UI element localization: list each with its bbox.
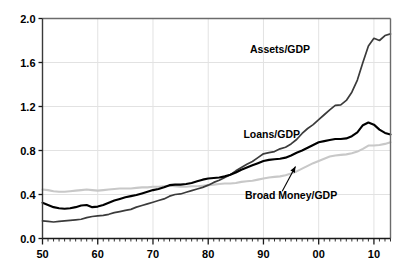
- gridlines: [43, 19, 391, 239]
- chart-figure: 0.00.40.81.21.62.050607080900010Assets/G…: [0, 0, 407, 271]
- x-tick-label: 90: [257, 248, 269, 260]
- y-tick-label: 0.8: [20, 145, 35, 157]
- x-axis: 50607080900010: [36, 239, 390, 260]
- series-annotation-label: Assets/GDP: [250, 43, 310, 55]
- x-tick-label: 00: [313, 248, 325, 260]
- series-annotation-label: Loans/GDP: [243, 128, 300, 140]
- y-tick-label: 2.0: [20, 13, 35, 25]
- x-tick-label: 80: [202, 248, 214, 260]
- annotation-leader: [282, 166, 295, 191]
- plot-frame: [43, 19, 391, 239]
- y-axis: 0.00.40.81.21.62.0: [20, 13, 42, 245]
- y-tick-label: 0.0: [20, 233, 35, 245]
- series-line-broad-money-gdp: [43, 142, 391, 192]
- y-tick-label: 1.2: [20, 101, 35, 113]
- x-tick-label: 10: [368, 248, 380, 260]
- x-tick-label: 60: [92, 248, 104, 260]
- line-chart-canvas: 0.00.40.81.21.62.050607080900010Assets/G…: [0, 0, 407, 271]
- series-annotation-label: Broad Money/GDP: [245, 189, 337, 201]
- series-line-loans-gdp: [43, 122, 391, 208]
- x-tick-label: 70: [147, 248, 159, 260]
- x-tick-label: 50: [36, 248, 48, 260]
- y-tick-label: 1.6: [20, 57, 35, 69]
- series-annotations: Assets/GDPLoans/GDPBroad Money/GDP: [243, 43, 337, 202]
- y-tick-label: 0.4: [20, 189, 36, 201]
